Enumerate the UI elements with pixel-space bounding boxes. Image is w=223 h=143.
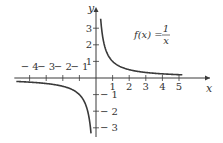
x-tick-label: 5 [176,81,182,92]
function-label: f(x) = [133,29,163,40]
x-tick-label: − 3 [37,61,55,72]
y-tick-label: 2 [86,39,92,50]
curve-negative-branch [16,81,91,133]
labels: − 4− 3− 2− 112345321− 1− 2− 3yxf(x) =1x [21,2,213,133]
y-tick-label: − 2 [100,106,118,117]
x-tick-label: 2 [126,81,132,92]
function-denominator: x [163,35,169,46]
y-axis-label: y [87,2,95,15]
reciprocal-function-graph: − 4− 3− 2− 112345321− 1− 2− 3yxf(x) =1x [0,0,223,143]
x-tick-label: 3 [143,81,149,92]
y-tick-label: 3 [86,23,92,34]
x-tick-label: 4 [159,81,165,92]
axes [14,7,210,137]
function-numerator: 1 [163,23,169,34]
y-axis-arrow-icon [94,7,99,12]
y-tick-label: − 3 [100,122,118,133]
y-tick-label: 1 [86,56,92,67]
y-tick-label: − 1 [100,89,118,100]
x-tick-label: − 4 [21,61,39,72]
x-tick-label: − 2 [54,61,72,72]
x-axis-arrow-icon [205,76,210,81]
x-axis-label: x [206,82,213,95]
curve-positive-branch [101,19,183,75]
